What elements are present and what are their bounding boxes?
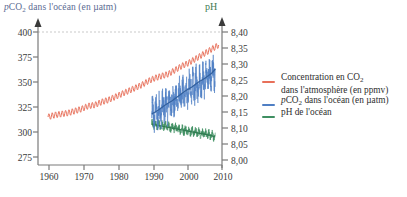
legend-label-ph-ocean: pH de l'océan: [281, 107, 332, 119]
series-co2-atmosphere: [48, 44, 219, 120]
legend-label-co2-sub: 2: [360, 76, 364, 84]
x-ticks: [49, 165, 222, 170]
legend-label-pco2-rest: dans l'océan (en µatm): [302, 95, 389, 105]
right-ticks: [222, 32, 228, 160]
left-axis-arrow: [35, 18, 42, 27]
left-ticks: [33, 32, 38, 157]
chart-figure: pCO2 dans l'océan (en µatm) pH 400 375 3…: [0, 0, 407, 197]
legend-swatch-ph-ocean: [262, 116, 275, 118]
legend-label-co2-line1: Concentration en CO: [281, 72, 360, 82]
legend-swatch-pco2-ocean: [262, 104, 275, 106]
legend-label-pco2-ocean: pCO2 dans l'océan (en µatm): [281, 95, 389, 108]
legend-label-pco2-sub: 2: [299, 99, 303, 107]
legend-swatch-co2-atmosphere: [262, 81, 275, 83]
legend-label-pco2-co: CO: [286, 95, 299, 105]
right-axis-arrow: [219, 17, 226, 26]
legend-label-co2-atmosphere: Concentration en CO2dans l'atmosphère (e…: [281, 72, 388, 96]
